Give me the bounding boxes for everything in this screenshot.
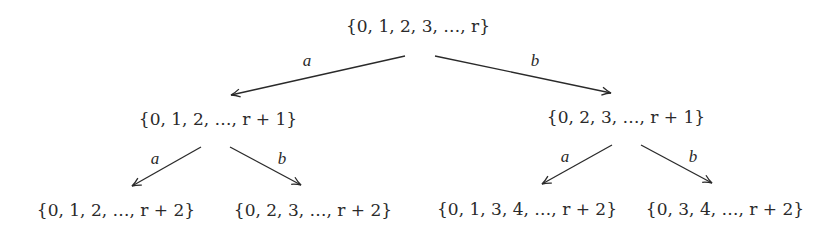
edge-label-left-b: b [278, 150, 287, 167]
edge-label-right-b: b [689, 148, 698, 165]
node-right: {0, 2, 3, …, r + 1} [547, 109, 705, 126]
node-left-left: {0, 1, 2, …, r + 2} [37, 202, 195, 219]
node-right-left: {0, 1, 3, 4, …, r + 2} [437, 201, 617, 218]
edge-left-leftright [230, 147, 301, 185]
edge-right-rightright [641, 145, 712, 183]
node-left-right: {0, 2, 3, …, r + 2} [234, 202, 392, 219]
edge-label-left-a: a [151, 150, 160, 167]
edge-label-right-a: a [561, 148, 570, 165]
edge-label-root-right: b [531, 52, 540, 69]
edge-root-left [231, 56, 405, 95]
edge-label-root-left: a [303, 52, 312, 69]
node-left: {0, 1, 2, …, r + 1} [139, 111, 297, 128]
node-right-right: {0, 3, 4, …, r + 2} [646, 201, 804, 218]
edge-root-right [435, 56, 611, 93]
edge-right-rightleft [542, 145, 612, 184]
tree-diagram: {0, 1, 2, 3, …, r} {0, 1, 2, …, r + 1} {… [0, 0, 838, 234]
edge-left-leftleft [132, 147, 201, 186]
node-root: {0, 1, 2, 3, …, r} [346, 18, 490, 35]
